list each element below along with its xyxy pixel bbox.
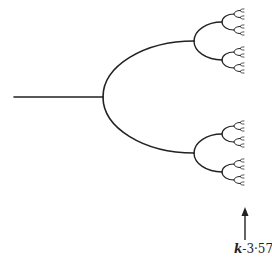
accumulation-point-arrow <box>242 207 249 240</box>
branch-curve <box>234 27 240 31</box>
branch-curve <box>240 32 244 34</box>
branch-curve <box>234 180 240 184</box>
branch-curve <box>240 159 244 161</box>
branch-curve <box>103 41 194 97</box>
branch-curve <box>234 161 240 165</box>
branch-curve <box>240 63 244 65</box>
branch-curve <box>234 164 240 168</box>
branch-curve <box>240 121 244 123</box>
branch-curve <box>240 34 244 36</box>
branch-curve <box>194 22 222 41</box>
branch-curve <box>222 164 234 172</box>
arrow-head-icon <box>242 207 249 216</box>
branch-curve <box>240 123 244 125</box>
parameter-value: 3·57 <box>246 242 272 256</box>
branch-curve <box>222 52 234 60</box>
branch-curve <box>103 97 194 153</box>
branch-curve <box>234 49 240 53</box>
bifurcation-tree <box>14 9 244 185</box>
branch-curve <box>240 49 244 51</box>
branch-curve <box>240 70 244 72</box>
branch-curve <box>240 16 244 18</box>
branch-curve <box>194 41 222 60</box>
branch-curve <box>222 126 234 134</box>
branch-curve <box>240 184 244 186</box>
branch-curve <box>240 166 244 168</box>
branch-curve <box>194 134 222 153</box>
branch-curve <box>234 68 240 72</box>
branch-curve <box>240 146 244 148</box>
branch-curve <box>240 72 244 74</box>
branch-curve <box>240 182 244 184</box>
branch-curve <box>240 65 244 67</box>
branch-curve <box>234 177 240 181</box>
branch-curve <box>234 142 240 146</box>
branch-curve <box>240 139 244 141</box>
branch-curve <box>222 60 234 68</box>
branch-curve <box>240 175 244 177</box>
branch-curve <box>240 54 244 56</box>
accumulation-point-label: k-3·57 <box>234 242 272 256</box>
branch-curve <box>222 14 234 22</box>
branch-curve <box>222 172 234 180</box>
branch-curve <box>234 65 240 69</box>
branch-curve <box>234 126 240 130</box>
branch-curve <box>234 14 240 18</box>
branch-curve <box>234 139 240 143</box>
branch-curve <box>240 130 244 132</box>
branch-curve <box>240 177 244 179</box>
branch-curve <box>240 128 244 130</box>
branch-curve <box>194 153 222 172</box>
branch-curve <box>234 123 240 127</box>
branch-curve <box>234 52 240 56</box>
branch-curve <box>240 11 244 13</box>
branch-curve <box>222 22 234 30</box>
branch-curve <box>240 56 244 58</box>
branch-curve <box>240 137 244 139</box>
bifurcation-diagram <box>0 0 272 267</box>
branch-curve <box>240 18 244 20</box>
branch-curve <box>234 30 240 34</box>
branch-curve <box>240 27 244 29</box>
branch-curve <box>240 144 244 146</box>
branch-curve <box>240 47 244 49</box>
branch-curve <box>234 11 240 15</box>
branch-curve <box>240 25 244 27</box>
branch-curve <box>240 168 244 170</box>
branch-curve <box>240 161 244 163</box>
branch-curve <box>240 9 244 11</box>
branch-curve <box>222 134 234 142</box>
